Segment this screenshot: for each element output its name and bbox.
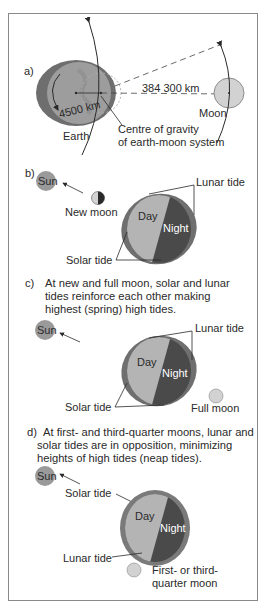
barycenter-label-line1: Centre of gravity xyxy=(118,123,199,135)
panel-a-label: a) xyxy=(24,65,34,77)
quarter-moon-label-line1: First- or third- xyxy=(152,564,218,576)
day-label: Day xyxy=(135,510,155,522)
night-label: Night xyxy=(163,222,189,234)
panel-b: b) Sun New moon Day Night Lunar tide Sol… xyxy=(25,167,245,275)
lunar-tide-label: Lunar tide xyxy=(195,322,244,334)
day-label: Day xyxy=(137,356,157,368)
tides-diagram: a) 384 300 km 4500 km Earth Moon Centre … xyxy=(0,0,274,610)
earth-label: Earth xyxy=(63,130,89,142)
new-moon-label: New moon xyxy=(65,206,118,218)
panel-c-caption-line3: highest (spring) high tides. xyxy=(45,303,176,315)
sun-label: Sun xyxy=(37,324,57,336)
sun-label: Sun xyxy=(37,470,57,482)
full-moon-label: Full moon xyxy=(191,402,239,414)
barycenter-label-line2: of earth-moon system xyxy=(118,136,224,148)
solar-tide-label: Solar tide xyxy=(66,254,112,266)
quarter-moon-icon xyxy=(127,563,141,577)
full-moon-icon xyxy=(209,389,223,403)
sun-label: Sun xyxy=(38,175,58,187)
panel-d-caption-line2: solar tides are in opposition, minimizin… xyxy=(37,439,232,451)
solar-tide-label: Solar tide xyxy=(65,487,111,499)
quarter-moon-label-line2: quarter moon xyxy=(152,577,217,589)
night-label: Night xyxy=(162,367,188,379)
panel-d-caption-line1: At first- and third-quarter moons, lunar… xyxy=(43,426,254,438)
panel-b-label: b) xyxy=(25,167,35,179)
distance-label: 384 300 km xyxy=(142,82,199,94)
day-label: Day xyxy=(138,210,158,222)
panel-d: d) At first- and third-quarter moons, lu… xyxy=(27,426,254,589)
night-label: Night xyxy=(160,522,186,534)
moon-label: Moon xyxy=(199,107,227,119)
panel-c-label: c) xyxy=(25,277,35,289)
panel-c-caption-line1: At new and full moon, solar and lunar xyxy=(45,277,230,289)
solar-tide-label: Solar tide xyxy=(65,401,111,413)
lunar-tide-label: Lunar tide xyxy=(196,176,245,188)
panel-c-caption-line2: tides reinforce each other making xyxy=(45,290,210,302)
panel-c: c) At new and full moon, solar and lunar… xyxy=(25,277,244,417)
panel-d-caption-line3: heights of high tides (neap tides). xyxy=(37,452,202,464)
panel-a: a) 384 300 km 4500 km Earth Moon Centre … xyxy=(24,22,244,155)
lunar-tide-label: Lunar tide xyxy=(63,552,112,564)
panel-d-label: d) xyxy=(27,426,37,438)
